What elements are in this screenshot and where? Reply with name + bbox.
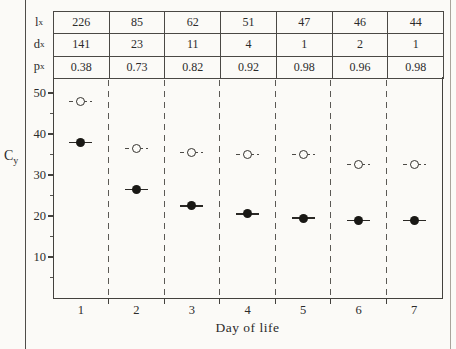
table-cell: 0.98 xyxy=(277,57,332,78)
table-cell: 11 xyxy=(165,34,220,55)
y-axis-label-subscript: y xyxy=(13,155,18,166)
table-cell: 23 xyxy=(110,34,165,55)
x-axis-label: Day of life xyxy=(53,320,442,336)
plot-area xyxy=(53,77,443,299)
table-cell: 44 xyxy=(388,12,443,33)
table-cell: 0.82 xyxy=(165,57,220,78)
table-cell: 62 xyxy=(165,12,220,33)
table-cell: 2 xyxy=(333,34,388,55)
table-row-label: px xyxy=(26,55,52,77)
x-axis-tick xyxy=(275,299,276,304)
table-cell: 46 xyxy=(333,12,388,33)
x-axis-tick xyxy=(164,299,165,304)
table-cell: 0.92 xyxy=(221,57,276,78)
table-cell: 226 xyxy=(54,12,109,33)
table-row-label: dx xyxy=(26,33,52,55)
x-axis-tick-label: 6 xyxy=(347,304,371,317)
table-cell: 4 xyxy=(221,34,276,55)
x-axis-tick-label: 5 xyxy=(291,304,315,317)
x-axis-tick xyxy=(386,299,387,304)
table-cell: 51 xyxy=(221,12,276,33)
y-axis-label-text: C xyxy=(4,148,13,163)
x-axis-tick xyxy=(108,299,109,304)
life-table-row-labels: lxdxpx xyxy=(26,11,52,77)
page-right-rule xyxy=(450,0,451,349)
y-axis-label: Cy xyxy=(4,148,18,166)
table-cell: 0.73 xyxy=(110,57,165,78)
table-cell: 0.98 xyxy=(388,57,443,78)
table-cell: 0.38 xyxy=(54,57,109,78)
x-axis-tick-label: 3 xyxy=(180,304,204,317)
table-cell: 85 xyxy=(110,12,165,33)
x-axis-tick xyxy=(330,299,331,304)
x-axis-tick-label: 2 xyxy=(124,304,148,317)
table-cell: 0.96 xyxy=(333,57,388,78)
x-axis-tick-label: 4 xyxy=(236,304,260,317)
table-cell: 47 xyxy=(277,12,332,33)
table-cell: 1 xyxy=(277,34,332,55)
figure-page: lxdxpx 226856251474644141231141210.380.7… xyxy=(0,0,456,349)
table-cell: 1 xyxy=(388,34,443,55)
table-cell: 141 xyxy=(54,34,109,55)
x-axis-tick-label: 7 xyxy=(402,304,426,317)
life-table-grid: 226856251474644141231141210.380.730.820.… xyxy=(53,11,444,79)
table-row-label: lx xyxy=(26,11,52,33)
x-axis-tick-label: 1 xyxy=(69,304,93,317)
x-axis-tick xyxy=(219,299,220,304)
